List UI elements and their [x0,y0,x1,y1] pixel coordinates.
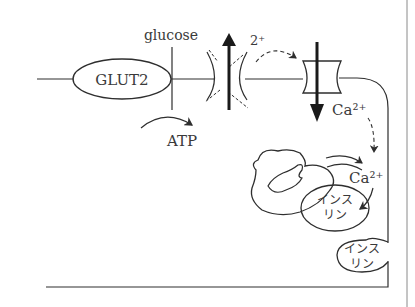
calcium-influx-arrow-icon [310,104,324,122]
golgi-arrow-icon [326,156,362,163]
calcium-signal-arrow-icon [368,118,374,152]
atp-arrow-icon [141,117,192,128]
insulin-label-1a: インス [317,193,353,207]
atp-label: ATP [166,132,197,150]
insulin-label-2b: リン [350,257,374,271]
insulin-label-1b: リン [323,208,347,222]
glut2-label: GLUT2 [95,71,148,89]
potassium-channel [205,33,248,110]
insulin-granule-exocytosis: インス リン [337,238,390,272]
calcium-in-label: Ca²⁺ [349,169,383,187]
diagram-svg: GLUT2 glucose ATP 2⁺ Ca²⁺ [0,0,415,307]
insulin-secretion-diagram: GLUT2 glucose ATP 2⁺ Ca²⁺ [0,0,415,307]
glucose-label: glucose [144,27,198,43]
glut2-transporter: GLUT2 [73,59,171,99]
insulin-label-2a: インス [344,242,380,256]
efflux-blocked-arrow-icon [222,33,236,46]
calcium-out-label: Ca²⁺ [332,101,366,119]
ion-label: 2⁺ [250,33,265,48]
depolarization-arrow-icon [256,51,296,62]
insulin-granule-internal: インス リン [301,185,369,231]
